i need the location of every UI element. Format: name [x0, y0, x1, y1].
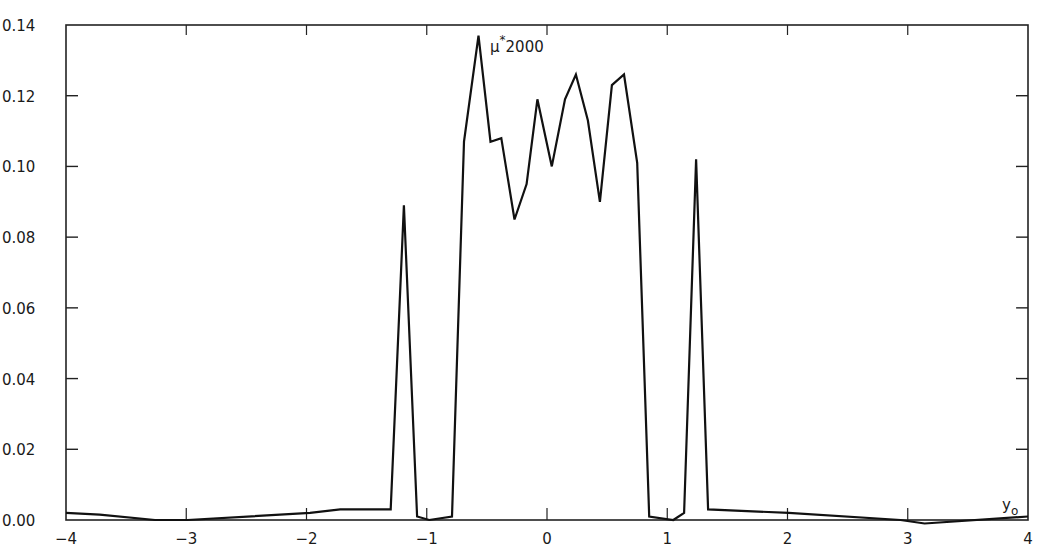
plot-frame: [66, 25, 1028, 520]
line-chart: 0.000.020.040.060.080.100.120.14 −4−3−2−…: [0, 0, 1040, 550]
x-tick-label: 1: [662, 530, 672, 548]
y-tick-label: 0.06: [2, 300, 35, 318]
x-tick-label: −4: [55, 530, 77, 548]
series-line: [66, 36, 1028, 524]
x-tick-label: 0: [542, 530, 552, 548]
y-axis-ticks: 0.000.020.040.060.080.100.120.14: [2, 17, 1028, 530]
x-tick-label: 2: [783, 530, 793, 548]
y-tick-label: 0.00: [2, 512, 35, 530]
y-tick-label: 0.02: [2, 441, 35, 459]
x-tick-label: −3: [175, 530, 197, 548]
y-tick-label: 0.04: [2, 371, 35, 389]
y-tick-label: 0.12: [2, 88, 35, 106]
x-tick-label: 4: [1023, 530, 1033, 548]
x-tick-label: −2: [295, 530, 317, 548]
y-tick-label: 0.10: [2, 158, 35, 176]
x-axis-ticks: −4−3−2−101234: [55, 25, 1033, 548]
x-tick-label: −1: [416, 530, 438, 548]
data-series: [66, 36, 1028, 524]
y-tick-label: 0.08: [2, 229, 35, 247]
y-tick-label: 0.14: [2, 17, 35, 35]
x-axis-label: yo: [1002, 496, 1018, 518]
x-tick-label: 3: [903, 530, 913, 548]
series-annotation-label: μ*2000: [490, 33, 544, 56]
